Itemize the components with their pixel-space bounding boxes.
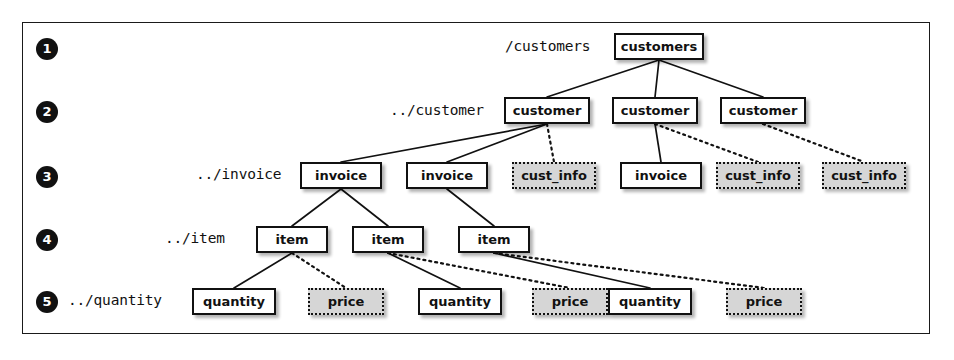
row-bullet-4: 4 [36, 229, 58, 251]
node-customer2[interactable]: customer [612, 97, 698, 124]
node-item3[interactable]: item [458, 226, 530, 253]
row-bullet-2: 2 [36, 101, 58, 123]
node-customer1[interactable]: customer [504, 97, 590, 124]
node-custinfo3[interactable]: cust_info [822, 162, 906, 189]
node-custinfo2[interactable]: cust_info [716, 162, 800, 189]
row-path-label-5: ../quantity [68, 292, 162, 308]
node-custinfo1[interactable]: cust_info [512, 162, 596, 189]
node-invoice3[interactable]: invoice [620, 162, 702, 189]
row-bullet-5: 5 [36, 291, 58, 313]
node-invoice1[interactable]: invoice [300, 162, 382, 189]
row-path-label-4: ../item [165, 230, 225, 246]
node-price1[interactable]: price [308, 288, 384, 315]
node-customer3[interactable]: customer [720, 97, 806, 124]
figure-root: 12345 /customers../customer../invoice../… [0, 0, 954, 360]
node-price3[interactable]: price [726, 288, 802, 315]
row-path-label-2: ../customer [390, 102, 484, 118]
node-customers[interactable]: customers [614, 33, 704, 60]
row-bullet-3: 3 [36, 166, 58, 188]
node-price2[interactable]: price [532, 288, 608, 315]
node-quantity3[interactable]: quantity [608, 288, 692, 315]
node-quantity1[interactable]: quantity [192, 288, 276, 315]
node-item1[interactable]: item [256, 226, 328, 253]
node-item2[interactable]: item [352, 226, 424, 253]
node-invoice2[interactable]: invoice [406, 162, 488, 189]
row-path-label-1: /customers [505, 38, 590, 54]
row-path-label-3: ../invoice [196, 166, 281, 182]
row-bullet-1: 1 [36, 38, 58, 60]
node-quantity2[interactable]: quantity [418, 288, 502, 315]
